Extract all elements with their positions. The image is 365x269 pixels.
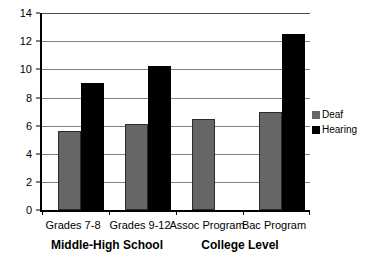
x-tick-2: [176, 210, 177, 215]
legend-swatch-deaf-icon: [312, 111, 320, 119]
bar-deaf-grades-7-8: [58, 131, 81, 210]
x-tick-0: [42, 210, 43, 215]
x-axis-group-labels: Middle-High School College Level: [40, 237, 308, 255]
y-tick-label-12: 12: [20, 36, 32, 47]
category-label-assoc-program: Assoc Program: [169, 218, 244, 232]
category-label-grades-9-12: Grades 9-12: [109, 218, 170, 232]
legend-item-deaf: Deaf: [312, 108, 364, 122]
x-tick-3: [243, 210, 244, 215]
bar-chart: 14 12 10 8 6 4 2 0: [0, 0, 365, 269]
x-tick-4: [309, 210, 310, 215]
legend-item-hearing: Hearing: [312, 123, 364, 137]
legend-swatch-hearing-icon: [312, 126, 320, 134]
y-tick-label-8: 8: [26, 93, 32, 104]
y-axis: 14 12 10 8 6 4 2 0: [0, 0, 36, 215]
bar-deaf-assoc-program: [192, 119, 215, 210]
y-tick-label-6: 6: [26, 121, 32, 132]
y-tick-label-2: 2: [26, 177, 32, 188]
y-tick-label-14: 14: [20, 8, 32, 19]
bar-hearing-grades-7-8: [81, 83, 104, 210]
group-label-middle-high-school: Middle-High School: [51, 237, 163, 253]
bar-deaf-grades-9-12: [125, 124, 148, 210]
category-label-grades-7-8: Grades 7-8: [45, 218, 100, 232]
y-tick-label-10: 10: [20, 64, 32, 75]
bar-deaf-bac-program: [259, 112, 282, 210]
group-label-college-level: College Level: [201, 237, 278, 253]
legend-label-hearing: Hearing: [322, 125, 357, 135]
y-tick-label-4: 4: [26, 149, 32, 160]
legend: Deaf Hearing: [312, 108, 364, 138]
bar-hearing-bac-program: [282, 34, 305, 210]
bar-hearing-grades-9-12: [148, 66, 171, 210]
bars-layer: [42, 13, 310, 210]
plot-area: [40, 13, 310, 212]
x-tick-1: [109, 210, 110, 215]
category-label-bac-program: Bac Program: [242, 218, 306, 232]
x-axis-category-labels: Grades 7-8 Grades 9-12 Assoc Program Bac…: [40, 218, 308, 234]
y-tick-label-0: 0: [26, 205, 32, 216]
legend-label-deaf: Deaf: [322, 110, 343, 120]
